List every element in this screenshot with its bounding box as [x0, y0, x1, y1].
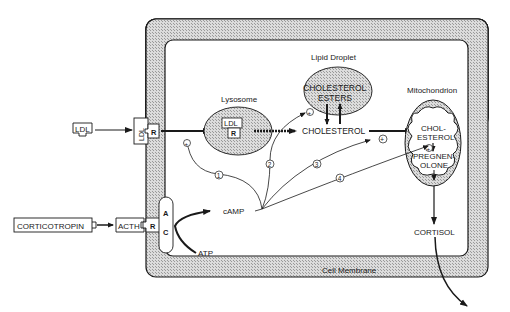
membrane-label: Cell Membrane — [322, 266, 377, 275]
cholesterol-label: CHOLESTEROL — [302, 126, 366, 136]
cortisol-label: CORTISOL — [414, 228, 455, 237]
mito-cholesterol-line2: ESTEROL — [417, 133, 455, 142]
svg-text:LDL: LDL — [138, 128, 145, 141]
svg-text:A: A — [163, 209, 169, 218]
adenylate-cyclase: A C — [159, 197, 173, 253]
svg-text:3: 3 — [315, 161, 319, 168]
svg-text:4: 4 — [338, 175, 342, 182]
mitochondrion-label: Mitochondrion — [407, 86, 457, 95]
ldl-particle: LDL — [73, 123, 92, 136]
svg-text:+: + — [308, 110, 312, 116]
pathway-number-3: 3 — [313, 160, 321, 168]
svg-text:R: R — [151, 128, 157, 137]
pathway-number-1: 1 — [215, 171, 223, 179]
atp-label: ATP — [198, 249, 213, 258]
pregnenolone-line1: PREGNEN- — [413, 152, 456, 161]
acth-receptor: ACTH R — [116, 218, 163, 232]
mito-cholesterol-line1: CHOL- — [421, 124, 446, 133]
svg-text:CORTICOTROPIN: CORTICOTROPIN — [17, 222, 84, 231]
svg-text:1: 1 — [217, 172, 221, 179]
cholesterol-esters-line1: CHOLESTEROL — [303, 83, 367, 93]
svg-text:+: + — [380, 136, 384, 143]
pathway-number-4: 4 — [336, 174, 344, 182]
svg-text:C: C — [163, 228, 169, 237]
pregnenolone-line2: OLONE — [420, 161, 448, 170]
camp-label: cAMP — [223, 207, 244, 216]
lysosome-label: Lysosome — [221, 95, 258, 104]
svg-text:+: + — [185, 141, 189, 147]
steroidogenesis-diagram: Cell Membrane LDL LDL R Lysosome LDL R L… — [0, 0, 510, 312]
lipid-droplet-label: Lipid Droplet — [311, 53, 357, 62]
svg-text:R: R — [231, 130, 236, 137]
svg-text:LDL: LDL — [224, 119, 238, 128]
svg-text:ACTH: ACTH — [118, 222, 140, 231]
pathway-number-2: 2 — [266, 160, 274, 168]
svg-text:R: R — [150, 222, 156, 231]
svg-text:LDL: LDL — [75, 125, 90, 134]
cholesterol-esters-line2: ESTERS — [318, 93, 352, 103]
svg-text:2: 2 — [268, 161, 272, 168]
corticotropin: CORTICOTROPIN — [14, 218, 96, 232]
